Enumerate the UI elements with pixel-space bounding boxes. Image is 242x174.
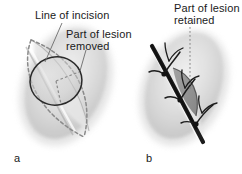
figure-root: Line of incision Part of lesion removed … [0,0,242,174]
panel-b-graphic [123,17,242,160]
label-part-of-lesion-removed: Part of lesion removed [66,29,132,52]
label-line-of-incision: Line of incision [35,10,109,22]
panel-letter-b: b [146,152,152,164]
panel-letter-a: a [14,152,20,164]
illustration-canvas [0,0,242,174]
label-part-of-lesion-retained: Part of lesion retained [174,3,240,26]
